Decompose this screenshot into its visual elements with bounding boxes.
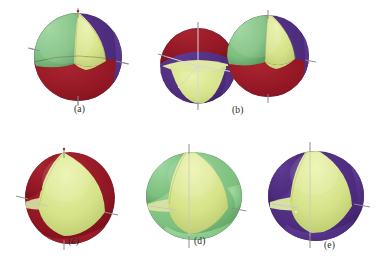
panel-e-caption: (e) <box>324 240 335 250</box>
panel-d: (d) <box>132 136 257 261</box>
origin-marker-e <box>295 211 297 213</box>
panel-e-graphic <box>258 138 380 263</box>
panel-c-caption: (c) <box>68 236 79 246</box>
pole-marker-a <box>77 10 80 13</box>
panel-b: (b) <box>150 4 325 112</box>
panel-d-caption: (d) <box>194 236 206 246</box>
panel-a-graphic <box>16 4 146 112</box>
figure-canvas: (a) <box>0 0 383 267</box>
panel-a-caption: (a) <box>74 104 85 114</box>
panel-b-graphic <box>150 4 325 112</box>
sphere-a <box>32 12 136 104</box>
sphere-d <box>146 148 244 248</box>
pole-marker-c <box>63 148 65 150</box>
sphere-b-right <box>225 10 322 103</box>
panel-b-caption: (b) <box>232 105 244 115</box>
panel-c: (c) <box>8 136 133 261</box>
panel-a: (a) <box>16 4 146 112</box>
sphere-b-left <box>158 22 236 110</box>
panel-e: (e) <box>258 138 380 263</box>
sphere-e <box>268 146 370 248</box>
